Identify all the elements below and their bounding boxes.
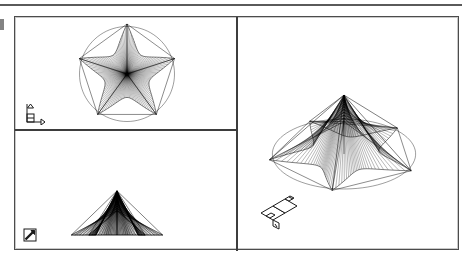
cad-window-frame bbox=[14, 16, 459, 250]
ucs-3d-axis-icon bbox=[259, 193, 301, 231]
top-view-drawing bbox=[17, 19, 236, 129]
top-rule bbox=[0, 4, 462, 6]
margin-mark bbox=[0, 19, 4, 30]
viewport-separator-horizontal[interactable] bbox=[15, 129, 237, 131]
viewport-isometric-view[interactable] bbox=[239, 19, 456, 247]
ucs-2d-axis-icon bbox=[23, 99, 49, 125]
viewport-grid bbox=[15, 17, 458, 249]
front-view-drawing bbox=[17, 131, 236, 247]
viewport-front-view[interactable] bbox=[17, 131, 236, 247]
page-root bbox=[0, 0, 473, 262]
viewport-separator-vertical[interactable] bbox=[236, 17, 238, 251]
ucs-broken-pencil-icon bbox=[21, 226, 39, 244]
viewport-top-view[interactable] bbox=[17, 19, 236, 129]
